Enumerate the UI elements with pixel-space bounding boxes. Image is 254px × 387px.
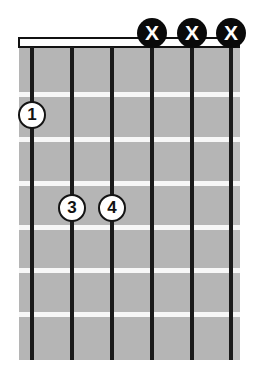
string-1 — [30, 47, 34, 360]
fret-line-5 — [19, 268, 240, 273]
string-5 — [190, 47, 194, 360]
fret-line-1 — [19, 92, 240, 97]
fret-line-2 — [19, 137, 240, 142]
mute-marker-string-4: X — [137, 18, 167, 48]
fret-line-4 — [19, 225, 240, 230]
finger-dot-4: 4 — [98, 194, 126, 222]
mute-marker-string-6: X — [216, 18, 246, 48]
string-6 — [229, 47, 233, 360]
finger-dot-1: 1 — [18, 101, 46, 129]
finger-dot-3: 3 — [58, 194, 86, 222]
string-4 — [150, 47, 154, 360]
mute-marker-string-5: X — [177, 18, 207, 48]
chord-diagram: XXX 134 — [0, 0, 254, 387]
nut — [18, 37, 240, 48]
fret-line-3 — [19, 181, 240, 186]
fret-line-6 — [19, 312, 240, 317]
